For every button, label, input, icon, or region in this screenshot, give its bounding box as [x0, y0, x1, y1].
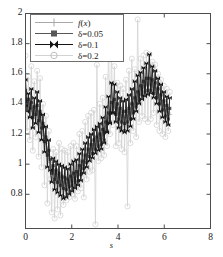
legend-item-fx[interactable]: f(x)	[34, 17, 120, 28]
legend-label-delta-01: δ=0.1	[74, 40, 99, 50]
legend-label-fx: f(x)	[74, 18, 91, 28]
y-tick-label: 1.6	[11, 67, 23, 77]
y-tick-label: 1.8	[11, 37, 23, 47]
legend-label-delta-02: δ=0.2	[74, 51, 99, 61]
legend-marker-bowtie-icon	[34, 39, 74, 50]
legend-item-delta-005[interactable]: δ=0.05	[34, 28, 120, 39]
x-tick-label: 8	[201, 232, 221, 242]
legend-label-delta-005: δ=0.05	[74, 29, 103, 39]
legend-marker-square-icon	[34, 28, 74, 39]
x-tick-label: 6	[154, 232, 174, 242]
x-axis-title: s	[0, 240, 223, 250]
y-tick-label: 1.4	[11, 97, 23, 107]
chart-legend: f(x) δ=0.05 δ=0.1 δ=0.2	[30, 14, 124, 62]
y-tick-label: 2	[18, 7, 23, 17]
legend-marker-circle-icon	[34, 50, 74, 61]
x-tick-label: 0	[16, 232, 36, 242]
legend-item-delta-01[interactable]: δ=0.1	[34, 39, 120, 50]
y-tick-label: 1.2	[11, 128, 23, 138]
legend-marker-plus-icon	[34, 17, 74, 28]
figure: s f(x) δ=0.05 δ=0.1 δ=0.2 0.811.21.4	[0, 0, 223, 257]
y-tick-label: 1	[18, 158, 23, 168]
x-tick-label: 4	[108, 232, 128, 242]
legend-item-delta-02[interactable]: δ=0.2	[34, 50, 120, 61]
y-tick-label: 0.8	[11, 188, 23, 198]
x-tick-label: 2	[62, 232, 82, 242]
